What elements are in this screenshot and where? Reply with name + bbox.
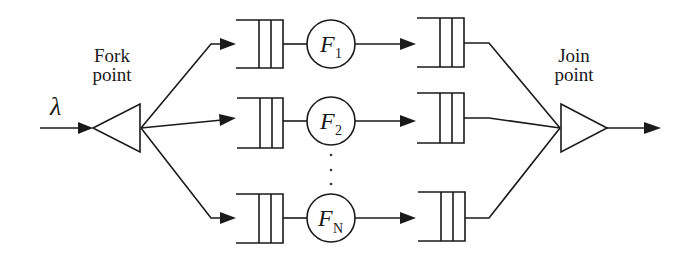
branch-row-2: F 2	[237, 93, 560, 148]
join-label-line1: Join	[558, 45, 590, 66]
server-subscript-n: N	[333, 221, 343, 236]
output-queue-n	[418, 192, 465, 241]
join-branch-1	[464, 43, 560, 128]
ellipsis-dots	[330, 154, 333, 186]
branch-row-n: F N	[236, 128, 560, 243]
fork-point-triangle	[93, 104, 140, 152]
server-subscript-1: 1	[335, 46, 342, 61]
server-subscript-2: 2	[335, 123, 342, 138]
fork-label-line1: Fork	[94, 45, 130, 66]
join-branch-n	[465, 128, 560, 218]
server-label-2: F	[319, 108, 335, 134]
fork-label-line2: point	[92, 64, 132, 85]
join-point-triangle	[561, 104, 607, 152]
server-label-n: F	[317, 205, 333, 231]
output-arrow	[607, 122, 661, 134]
fork-branch-1	[141, 38, 236, 128]
join-label-line2: point	[554, 64, 594, 85]
input-arrow	[40, 122, 93, 134]
input-queue-2	[237, 98, 283, 148]
input-queue-1	[236, 20, 283, 68]
input-queue-n	[236, 194, 283, 243]
arrival-rate-lambda: λ	[49, 92, 61, 121]
server-label-1: F	[319, 31, 335, 57]
fork-join-diagram: λ Fork point F 1	[0, 0, 693, 261]
join-branch-2	[464, 118, 560, 128]
fork-branch-3	[141, 128, 236, 224]
fork-branch-2	[141, 114, 236, 128]
branch-row-1: F 1	[236, 18, 560, 128]
output-queue-1	[417, 18, 464, 67]
output-queue-2	[417, 93, 464, 143]
